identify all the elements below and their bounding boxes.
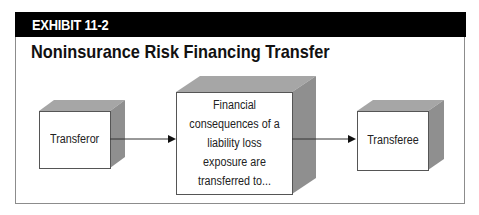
exhibit-label: EXHIBIT 11-2: [32, 16, 108, 33]
node-label: Transferee: [357, 111, 429, 170]
exhibit-header-bar: EXHIBIT 11-2: [15, 12, 466, 37]
arrow-right-icon: [110, 134, 178, 144]
node-transferee: Transferee: [357, 100, 445, 171]
arrow-right-icon: [292, 134, 360, 144]
node-label: Financial consequences of a liability lo…: [182, 92, 287, 194]
exhibit-title: Noninsurance Risk Financing Transfer: [31, 41, 330, 63]
node-label: Transferor: [39, 111, 111, 168]
